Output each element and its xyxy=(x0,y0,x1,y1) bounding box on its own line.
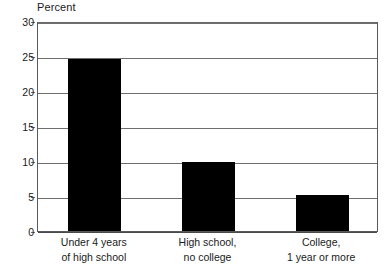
x-axis-label: College,1 year or more xyxy=(264,235,378,264)
x-axis-label-line: of high school xyxy=(37,250,151,265)
y-tick-label-30: 30 xyxy=(4,17,34,27)
x-axis-category-labels: Under 4 yearsof high schoolHigh school,n… xyxy=(37,235,378,269)
x-axis-label-line: no college xyxy=(151,250,265,265)
y-axis-tick-labels: 051015202530 xyxy=(0,22,34,232)
bar xyxy=(182,162,235,231)
x-axis-label: High school,no college xyxy=(151,235,265,264)
bar-chart-figure: Percent 051015202530 Under 4 yearsof hig… xyxy=(0,0,387,272)
x-axis-label-line: College, xyxy=(264,235,378,250)
y-tick-label-15: 15 xyxy=(4,122,34,132)
y-tick-label-25: 25 xyxy=(4,52,34,62)
y-tick-label-5: 5 xyxy=(4,192,34,202)
gridline-0 xyxy=(38,232,377,233)
gridline-30 xyxy=(38,23,377,24)
bar xyxy=(68,59,121,231)
y-tick-label-20: 20 xyxy=(4,87,34,97)
y-axis-title: Percent xyxy=(37,1,76,14)
x-axis-label-line: High school, xyxy=(151,235,265,250)
y-tick-label-0: 0 xyxy=(4,227,34,237)
x-axis-label-line: 1 year or more xyxy=(264,250,378,265)
bar xyxy=(296,195,349,231)
x-axis-label-line: Under 4 years xyxy=(37,235,151,250)
y-tick-label-10: 10 xyxy=(4,157,34,167)
x-axis-label: Under 4 yearsof high school xyxy=(37,235,151,264)
plot-area xyxy=(37,22,378,232)
